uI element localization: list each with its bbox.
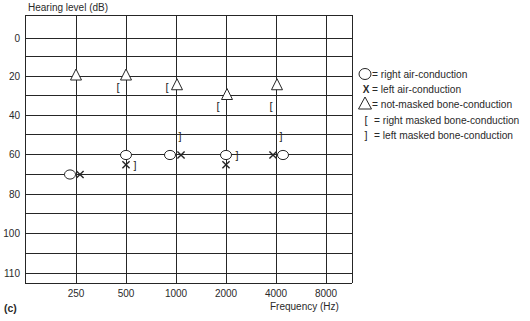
x-icon: X	[363, 84, 370, 95]
y-tick-label: 110	[4, 268, 20, 279]
legend-item: ]= left masked bone-conduction	[364, 129, 513, 141]
x-tick-label: 2000	[215, 288, 238, 299]
legend-label: = not-masked bone-conduction	[372, 99, 512, 110]
x-tick-label: 500	[118, 288, 135, 299]
y-tick-label: 40	[9, 110, 21, 121]
circle-marker-icon	[221, 150, 232, 159]
legend-item: X= left air-conduction	[363, 84, 462, 95]
y-tick-label: 60	[9, 149, 21, 160]
left-bracket-marker-icon: [	[216, 100, 219, 112]
x-tick-label: 250	[68, 288, 85, 299]
circle-marker-icon	[65, 170, 76, 179]
x-axis-title: Frequency (Hz)	[270, 301, 339, 312]
panel-label: (c)	[4, 302, 17, 314]
right-bracket-marker-icon: ]	[133, 159, 136, 171]
right-bracket-marker-icon: ]	[279, 130, 282, 142]
left-bracket-marker-icon: [	[269, 100, 272, 112]
circle-marker-icon	[121, 150, 132, 159]
y-tick-label: 20	[9, 71, 21, 82]
legend-label: = right masked bone-conduction	[374, 115, 519, 126]
left-bracket-marker-icon: [	[165, 81, 168, 93]
y-tick-label: 100	[3, 228, 20, 239]
legend-item: [= right masked bone-conduction	[364, 114, 519, 126]
legend-label: = right air-conduction	[372, 69, 467, 80]
x-tick-label: 8000	[315, 288, 338, 299]
left-bracket-icon: [	[364, 114, 367, 126]
legend-item: = right air-conduction	[359, 69, 467, 80]
circle-icon	[359, 69, 371, 80]
left-bracket-marker-icon: [	[116, 81, 119, 93]
y-axis-title: Hearing level (dB)	[28, 2, 108, 13]
y-tick-label: 80	[9, 189, 21, 200]
legend-label: = left masked bone-conduction	[374, 130, 513, 141]
legend-item: = not-masked bone-conduction	[359, 97, 513, 110]
right-bracket-icon: ]	[364, 129, 367, 141]
audiogram-chart: Hearing level (dB) 020406080100110 25050…	[0, 0, 530, 321]
x-tick-label: 4000	[265, 288, 288, 299]
circle-marker-icon	[278, 150, 289, 159]
y-tick-label: 0	[14, 33, 20, 44]
legend-label: = left air-conduction	[372, 84, 461, 95]
right-bracket-marker-icon: ]	[235, 149, 238, 161]
circle-marker-icon	[165, 150, 176, 159]
x-tick-label: 1000	[165, 288, 188, 299]
right-bracket-marker-icon: ]	[178, 130, 181, 142]
